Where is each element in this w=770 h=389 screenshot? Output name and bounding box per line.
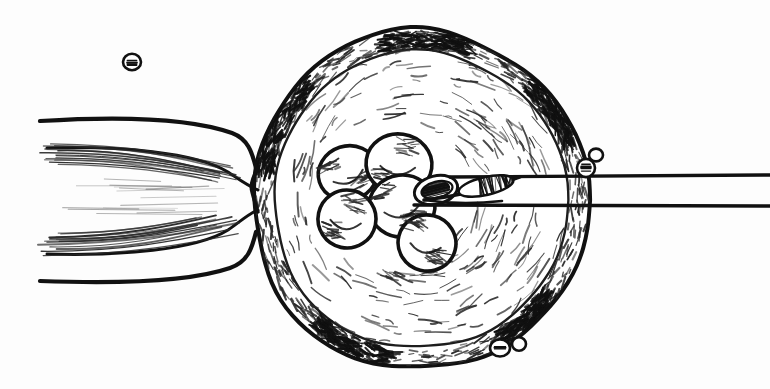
particle-zona-right bbox=[577, 159, 595, 177]
particle-upper-left bbox=[123, 54, 141, 70]
embryo-micromanipulation-drawing bbox=[0, 0, 770, 389]
illustration-canvas bbox=[0, 0, 770, 389]
particle-bottom-b bbox=[512, 337, 526, 351]
particle-bottom-a bbox=[490, 340, 510, 357]
